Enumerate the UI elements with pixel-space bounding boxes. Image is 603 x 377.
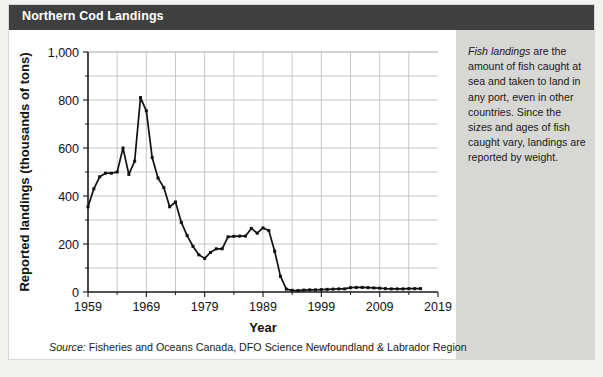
data-point-marker xyxy=(133,160,136,163)
data-point-marker xyxy=(372,286,375,289)
data-point-marker xyxy=(162,186,165,189)
x-tick-label: 1979 xyxy=(191,300,219,314)
y-tick-label: 1,000 xyxy=(48,46,79,60)
data-point-marker xyxy=(378,287,381,290)
data-point-marker xyxy=(110,172,113,175)
data-point-marker xyxy=(209,251,212,254)
data-point-marker xyxy=(232,235,235,238)
y-tick-label: 400 xyxy=(58,190,79,204)
data-point-marker xyxy=(407,287,410,290)
data-point-marker xyxy=(349,286,352,289)
data-point-marker xyxy=(127,173,130,176)
data-point-marker xyxy=(419,287,422,290)
data-point-marker xyxy=(285,288,288,291)
data-point-marker xyxy=(221,247,224,250)
x-tick-label: 1969 xyxy=(132,300,160,314)
data-point-marker xyxy=(291,289,294,292)
data-point-marker xyxy=(203,257,206,260)
y-tick-label: 0 xyxy=(72,286,79,300)
data-point-marker xyxy=(116,171,119,174)
data-point-marker xyxy=(180,221,183,224)
data-point-marker xyxy=(314,288,317,291)
data-series-line xyxy=(88,98,421,291)
chart-panel: Northern Cod Landings 02004006008001,000… xyxy=(8,4,595,360)
data-point-marker xyxy=(326,288,329,291)
chart-title-bar: Northern Cod Landings xyxy=(9,5,594,30)
source-caption: Source: Fisheries and Oceans Canada, DFO… xyxy=(49,341,467,353)
sidebar-note-panel: Fish landings are the amount of fish cau… xyxy=(456,30,595,360)
data-point-marker xyxy=(332,288,335,291)
source-text: Fisheries and Oceans Canada, DFO Science… xyxy=(86,341,467,353)
data-point-marker xyxy=(320,288,323,291)
data-point-marker xyxy=(238,235,241,238)
data-point-marker xyxy=(122,147,125,150)
x-tick-label: 1999 xyxy=(307,300,335,314)
data-point-marker xyxy=(390,287,393,290)
x-axis-title: Year xyxy=(249,320,276,335)
data-point-marker xyxy=(139,96,142,99)
data-point-marker xyxy=(186,234,189,237)
y-tick-label: 200 xyxy=(58,238,79,252)
line-chart-svg: 02004006008001,0001959196919791989199920… xyxy=(9,30,456,360)
data-point-marker xyxy=(215,247,218,250)
x-tick-label: 1959 xyxy=(74,300,102,314)
data-point-marker xyxy=(302,289,305,292)
y-axis-title: Reported landings (thousands of tons) xyxy=(17,52,32,291)
data-point-marker xyxy=(227,235,230,238)
data-point-marker xyxy=(174,201,177,204)
sidebar-note-text: Fish landings are the amount of fish cau… xyxy=(468,44,586,166)
data-point-marker xyxy=(92,187,95,190)
x-tick-label: 2009 xyxy=(366,300,394,314)
data-point-marker xyxy=(244,235,247,238)
data-point-marker xyxy=(355,286,358,289)
data-point-marker xyxy=(157,177,160,180)
data-point-marker xyxy=(343,287,346,290)
x-tick-label: 1989 xyxy=(249,300,277,314)
data-point-marker xyxy=(262,226,265,229)
data-point-marker xyxy=(98,175,101,178)
data-point-marker xyxy=(256,232,259,235)
x-tick-label: 2019 xyxy=(424,300,452,314)
data-point-marker xyxy=(396,287,399,290)
sidebar-note-emphasis: Fish landings xyxy=(468,45,530,57)
data-point-marker xyxy=(279,275,282,278)
data-point-marker xyxy=(151,156,154,159)
data-point-marker xyxy=(297,289,300,292)
y-tick-label: 600 xyxy=(58,142,79,156)
data-point-marker xyxy=(384,287,387,290)
data-point-marker xyxy=(367,286,370,289)
data-point-marker xyxy=(413,287,416,290)
y-tick-label: 800 xyxy=(58,94,79,108)
data-point-marker xyxy=(337,287,340,290)
chart-plot-area: 02004006008001,0001959196919791989199920… xyxy=(9,30,456,360)
data-point-marker xyxy=(361,286,364,289)
data-point-marker xyxy=(273,250,276,253)
page-title: Northern Cod Landings xyxy=(22,9,164,23)
figure-container: Northern Cod Landings 02004006008001,000… xyxy=(0,0,603,377)
sidebar-note-body: are the amount of fish caught at sea and… xyxy=(468,45,586,163)
data-point-marker xyxy=(104,172,107,175)
data-point-marker xyxy=(197,253,200,256)
data-point-marker xyxy=(145,109,148,112)
data-point-marker xyxy=(168,205,171,208)
data-point-marker xyxy=(250,227,253,230)
data-point-marker xyxy=(308,288,311,291)
data-point-marker xyxy=(402,287,405,290)
source-label: Source: xyxy=(49,341,86,353)
data-point-marker xyxy=(87,205,90,208)
data-point-marker xyxy=(267,229,270,232)
data-point-marker xyxy=(192,245,195,248)
